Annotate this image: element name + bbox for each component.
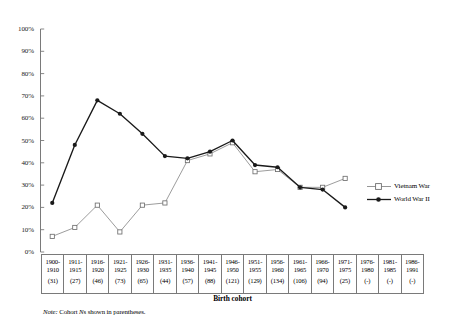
cohort-n-count: (-): [409, 277, 415, 285]
cohort-range-start: 1941-: [203, 258, 217, 266]
legend: Vietnam War World War II: [366, 180, 430, 206]
data-point-marker: [73, 143, 77, 147]
x-axis-cohort-column: 1936-1940(57): [177, 255, 199, 293]
cohort-n-count: (129): [248, 277, 261, 285]
note-body: Cohort: [58, 308, 79, 315]
cohort-range-end: 1950: [226, 266, 238, 274]
data-point-marker: [73, 225, 77, 229]
data-point-marker: [343, 176, 347, 180]
data-point-marker: [275, 165, 279, 169]
cohort-range-start: 1921-: [113, 258, 127, 266]
cohort-n-count: (65): [138, 277, 148, 285]
data-series-world-war-ii: [50, 98, 347, 209]
cohort-range-end: 1925: [114, 266, 126, 274]
cohort-range-end: 1960: [271, 266, 283, 274]
cohort-n-count: (44): [160, 277, 170, 285]
data-point-marker: [118, 230, 122, 234]
x-axis-cohort-column: 1966-1970(94): [312, 255, 334, 293]
cohort-n-count: (73): [115, 277, 125, 285]
cohort-range-end: 1945: [204, 266, 216, 274]
cohort-range-end: 1980: [361, 266, 373, 274]
cohort-range-end: 1975: [339, 266, 351, 274]
cohort-range-start: 1971-: [338, 258, 352, 266]
cohort-range-start: 1986-: [405, 258, 419, 266]
x-axis-cohort-column: 1911-1915(27): [64, 255, 86, 293]
x-axis-cohort-column: 1941-1945(88): [199, 255, 221, 293]
x-axis-title: Birth cohort: [41, 294, 424, 303]
cohort-range-start: 1926-: [135, 258, 149, 266]
cohort-range-end: 1955: [249, 266, 261, 274]
cohort-n-count: (-): [387, 277, 393, 285]
data-point-marker: [163, 201, 167, 205]
cohort-n-count: (88): [205, 277, 215, 285]
cohort-range-start: 1981-: [383, 258, 397, 266]
x-axis-cohort-table: 1900-1910(31)1911-1915(27)1916-1920(46)1…: [41, 254, 424, 294]
cohort-range-start: 1911-: [68, 258, 82, 266]
data-series-group: [50, 98, 347, 238]
legend-item-world-war-ii[interactable]: World War II: [366, 193, 430, 206]
data-point-marker: [50, 234, 54, 238]
cohort-range-start: 1916-: [90, 258, 104, 266]
cohort-range-start: 1946-: [225, 258, 239, 266]
x-axis-cohort-column: 1931-1935(44): [154, 255, 176, 293]
cohort-n-count: (-): [364, 277, 370, 285]
filled-circle-marker-icon: [366, 193, 392, 206]
cohort-n-count: (25): [340, 277, 350, 285]
x-axis-cohort-column: 1976-1980(-): [357, 255, 379, 293]
cohort-range-start: 1961-: [293, 258, 307, 266]
open-square-marker-icon: [366, 180, 392, 193]
cohort-range-end: 1985: [384, 266, 396, 274]
legend-label-vietnam-war: Vietnam War: [392, 180, 430, 193]
x-axis-cohort-column: 1946-1950(121): [222, 255, 244, 293]
x-axis-cohort-column: 1971-1975(25): [334, 255, 356, 293]
cohort-n-count: (121): [226, 277, 239, 285]
cohort-range-end: 1930: [136, 266, 148, 274]
cohort-n-count: (27): [70, 277, 80, 285]
cohort-n-count: (57): [182, 277, 192, 285]
data-point-marker: [230, 138, 234, 142]
data-point-marker: [208, 150, 212, 154]
legend-item-vietnam-war[interactable]: Vietnam War: [366, 180, 430, 193]
legend-label-world-war-ii: World War II: [392, 193, 430, 206]
data-point-marker: [253, 163, 257, 167]
data-point-marker: [298, 185, 302, 189]
cohort-range-end: 1935: [159, 266, 171, 274]
data-point-marker: [118, 112, 122, 116]
data-point-marker: [50, 201, 54, 205]
data-point-marker: [140, 203, 144, 207]
data-point-marker: [95, 98, 99, 102]
chart-figure: 100% 90% 80% 70% 60% 50% 40% 30% 20% 10%…: [0, 0, 453, 322]
cohort-range-start: 1900-: [46, 258, 60, 266]
figure-note: Note: Cohort Ns shown in parentheses.: [43, 308, 145, 315]
y-axis-ticks: [41, 29, 45, 252]
data-point-marker: [140, 132, 144, 136]
cohort-range-start: 1951-: [248, 258, 262, 266]
x-axis-cohort-column: 1956-1960(134): [267, 255, 289, 293]
x-axis-cohort-column: 1961-1965(106): [289, 255, 311, 293]
cohort-range-end: 1991: [406, 266, 418, 274]
note-suffix: s shown in parentheses.: [84, 308, 146, 315]
cohort-range-start: 1931-: [158, 258, 172, 266]
cohort-range-end: 1940: [181, 266, 193, 274]
x-axis-cohort-column: 1916-1920(46): [87, 255, 109, 293]
x-axis-cohort-column: 1900-1910(31): [42, 255, 64, 293]
cohort-range-end: 1910: [47, 266, 59, 274]
x-axis-cohort-column: 1921-1925(73): [109, 255, 131, 293]
cohort-range-end: 1920: [91, 266, 103, 274]
cohort-range-end: 1965: [294, 266, 306, 274]
cohort-range-start: 1976-: [360, 258, 374, 266]
cohort-n-count: (134): [271, 277, 284, 285]
data-point-marker: [163, 154, 167, 158]
data-point-marker: [95, 203, 99, 207]
cohort-range-start: 1956-: [270, 258, 284, 266]
cohort-range-end: 1915: [69, 266, 81, 274]
data-point-marker: [321, 187, 325, 191]
series-line: [52, 100, 345, 207]
cohort-range-start: 1936-: [180, 258, 194, 266]
x-axis-cohort-column: 1926-1930(65): [132, 255, 154, 293]
x-axis-cohort-column: 1981-1985(-): [379, 255, 401, 293]
cohort-n-count: (31): [48, 277, 58, 285]
cohort-n-count: (46): [93, 277, 103, 285]
cohort-range-start: 1966-: [315, 258, 329, 266]
x-axis-cohort-column: 1951-1955(129): [244, 255, 266, 293]
